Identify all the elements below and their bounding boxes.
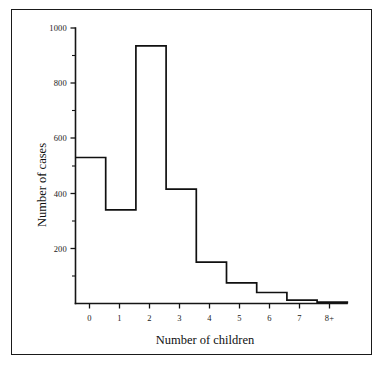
x-tick-label-7: 7 — [297, 313, 301, 323]
plot-area: 1000 800 600 400 200 0 1 2 3 4 5 6 7 8+ … — [0, 0, 384, 365]
histogram-step-outline — [76, 46, 348, 304]
figure-container: 1000 800 600 400 200 0 1 2 3 4 5 6 7 8+ … — [0, 0, 384, 365]
y-tick-label-800: 800 — [54, 78, 67, 88]
x-tick-label-0: 0 — [87, 313, 91, 323]
x-axis-title: Number of children — [156, 333, 255, 347]
y-tick-label-1000: 1000 — [49, 23, 67, 33]
x-tick-label-8plus: 8+ — [325, 313, 334, 323]
y-axis-title: Number of cases — [35, 143, 49, 227]
y-tick-label-200: 200 — [54, 244, 67, 254]
x-tick-label-5: 5 — [237, 313, 241, 323]
histogram-chart: 1000 800 600 400 200 0 1 2 3 4 5 6 7 8+ … — [0, 0, 384, 365]
y-tick-label-600: 600 — [54, 133, 67, 143]
x-tick-label-4: 4 — [207, 313, 212, 323]
x-tick-label-1: 1 — [117, 313, 121, 323]
x-tick-label-6: 6 — [267, 313, 271, 323]
x-tick-label-2: 2 — [147, 313, 151, 323]
x-tick-label-3: 3 — [177, 313, 181, 323]
y-tick-label-400: 400 — [54, 189, 67, 199]
